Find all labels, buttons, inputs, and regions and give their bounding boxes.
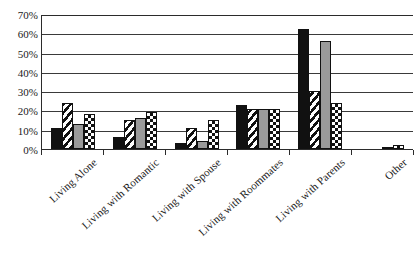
y-axis-tick-label: 60%: [18, 29, 38, 40]
bar: [146, 112, 157, 149]
bar-group: [351, 15, 413, 149]
bar: [258, 109, 269, 150]
bar-group: [227, 15, 289, 149]
y-axis-tick-label: 0%: [23, 145, 38, 156]
bar-group: [42, 15, 104, 149]
bar: [84, 114, 95, 149]
x-axis-category-label: Living Alone: [46, 156, 98, 205]
y-axis-tick-label: 50%: [18, 48, 38, 59]
bar: [51, 128, 62, 149]
y-axis-tick-label: 10%: [18, 125, 38, 136]
bar: [113, 137, 124, 149]
x-axis-tick: [413, 150, 414, 155]
x-axis-category-label: Living with Parents: [273, 156, 347, 224]
bar: [208, 120, 219, 149]
bar: [269, 109, 280, 150]
bar: [236, 105, 247, 149]
bar: [320, 41, 331, 149]
bar-group: [104, 15, 166, 149]
bar: [309, 91, 320, 149]
bar: [331, 103, 342, 149]
bar: [175, 143, 186, 149]
y-axis-tick-label: 30%: [18, 87, 38, 98]
bar: [197, 141, 208, 149]
x-axis-tick: [351, 150, 352, 155]
bar: [382, 147, 393, 149]
x-axis-tick: [289, 150, 290, 155]
y-axis-tick-label: 40%: [18, 67, 38, 78]
bar-group: [166, 15, 228, 149]
bar-series-container: [42, 15, 413, 149]
plot-area: [41, 15, 413, 150]
bar: [298, 29, 309, 149]
x-axis-tick: [165, 150, 166, 155]
bar: [186, 128, 197, 149]
bar-group: [289, 15, 351, 149]
y-axis: 0%10%20%30%40%50%60%70%: [0, 0, 38, 264]
bar: [135, 118, 146, 149]
bar-chart: 0%10%20%30%40%50%60%70% Living AloneLivi…: [0, 0, 420, 264]
bar: [247, 109, 258, 150]
x-axis-tick: [41, 150, 42, 155]
y-axis-tick-label: 70%: [18, 10, 38, 21]
x-axis-tick: [103, 150, 104, 155]
x-axis-category-label: Other: [382, 156, 409, 182]
x-axis-labels: Living AloneLiving with RomanticLiving w…: [41, 156, 413, 260]
bar: [393, 145, 404, 149]
x-axis-tick: [227, 150, 228, 155]
bar: [62, 103, 73, 149]
bar: [124, 120, 135, 149]
bar: [73, 124, 84, 149]
y-axis-tick-label: 20%: [18, 106, 38, 117]
